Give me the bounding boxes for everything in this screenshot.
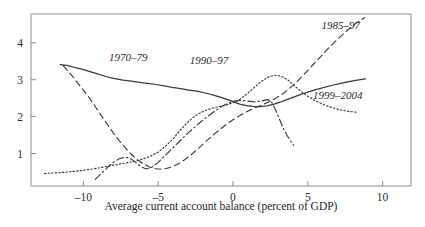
y-tick-label: 3 bbox=[17, 74, 23, 86]
x-tick-label: –10 bbox=[74, 191, 93, 203]
series-label-1985-97: 1985–97 bbox=[321, 19, 360, 31]
line-chart: 1234 –10–50510 1970–791985–971990–971999… bbox=[0, 0, 425, 227]
y-axis-tick-labels: 1234 bbox=[17, 37, 23, 160]
y-tick-label: 2 bbox=[17, 111, 23, 123]
x-axis-ticks bbox=[83, 181, 382, 186]
series-line-1990-97 bbox=[95, 100, 293, 180]
series-label-1970-79: 1970–79 bbox=[109, 51, 148, 63]
x-axis-title: Average current account balance (percent… bbox=[105, 200, 338, 213]
y-tick-label: 4 bbox=[17, 37, 23, 49]
y-tick-label: 1 bbox=[17, 148, 23, 160]
y-axis-ticks bbox=[31, 43, 36, 154]
series-label-1999-2004: 1999–2004 bbox=[313, 89, 363, 101]
series-annotations: 1970–791985–971990–971999–2004 bbox=[109, 19, 363, 101]
x-tick-label: 10 bbox=[377, 191, 389, 203]
series-label-1990-97: 1990–97 bbox=[190, 54, 229, 66]
series-line-1999-2004 bbox=[44, 75, 357, 173]
chart-figure: 1234 –10–50510 1970–791985–971990–971999… bbox=[0, 0, 425, 227]
